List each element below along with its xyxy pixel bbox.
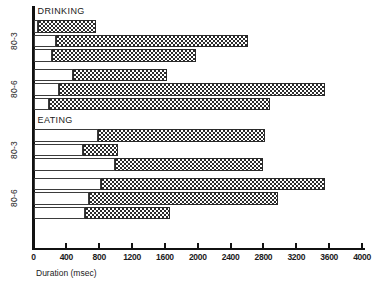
bar	[34, 69, 167, 82]
x-axis-tick-label: 400	[60, 252, 73, 262]
bar-segment-white	[34, 35, 57, 48]
bar	[34, 144, 119, 157]
bar	[34, 192, 278, 205]
x-axis-tick	[164, 243, 166, 248]
bar-segment-white	[34, 83, 59, 96]
x-axis-tick-label: 0	[31, 252, 35, 262]
bar-segment-stippled	[52, 49, 196, 62]
bar-segment-white	[34, 144, 83, 157]
bar-segment-stippled	[49, 98, 270, 111]
bar-segment-stippled	[115, 158, 264, 171]
bar	[34, 207, 170, 220]
bar	[34, 35, 248, 48]
x-axis-title: Duration (msec)	[36, 268, 96, 278]
section-title-drinking: DRINKING	[38, 6, 85, 16]
bar-segment-white	[34, 129, 98, 142]
group-label-eating-0: 80-3	[8, 136, 20, 164]
x-axis-tick-label: 2400	[222, 252, 240, 262]
group-label-drinking-0: 80-3	[8, 27, 20, 55]
x-axis-tick	[295, 243, 297, 248]
bar-segment-stippled	[59, 83, 325, 96]
x-axis-tick	[328, 243, 330, 248]
bar-segment-white	[34, 98, 50, 111]
x-axis-tick-label: 1200	[123, 252, 141, 262]
x-axis-line	[32, 248, 365, 250]
bar-segment-stippled	[101, 178, 325, 191]
bar-segment-white	[34, 192, 89, 205]
bar-segment-stippled	[85, 207, 170, 220]
x-axis-tick-label: 1600	[156, 252, 174, 262]
bar-segment-stippled	[83, 144, 118, 157]
bar-segment-white	[34, 178, 101, 191]
x-axis-tick-label: 4000	[353, 252, 371, 262]
bar	[34, 20, 96, 33]
x-axis-tick-label: 3600	[320, 252, 338, 262]
x-axis-tick	[361, 243, 363, 248]
bar	[34, 49, 197, 62]
group-label-drinking-1: 80-6	[8, 75, 20, 103]
x-axis-tick	[131, 243, 133, 248]
bar-segment-stippled	[89, 192, 278, 205]
bar	[34, 83, 325, 96]
x-axis-tick-label: 2000	[189, 252, 207, 262]
x-axis-tick-label: 800	[93, 252, 106, 262]
bar-segment-white	[34, 49, 52, 62]
x-axis-tick	[262, 243, 264, 248]
bar-segment-stippled	[56, 35, 248, 48]
bar	[34, 158, 264, 171]
bar-segment-white	[34, 69, 73, 82]
section-title-eating: EATING	[38, 115, 73, 125]
x-axis-tick	[98, 243, 100, 248]
bar-segment-stippled	[73, 69, 167, 82]
x-axis-tick	[33, 243, 35, 248]
bar-segment-stippled	[38, 20, 96, 33]
bar	[34, 129, 265, 142]
x-axis-tick	[230, 243, 232, 248]
x-axis-tick	[197, 243, 199, 248]
x-axis-tick	[65, 243, 67, 248]
bar-chart: 040080012001600200024002800320036004000D…	[0, 0, 379, 289]
bar	[34, 98, 271, 111]
x-axis-tick-label: 3200	[287, 252, 305, 262]
bar	[34, 178, 325, 191]
bar-segment-white	[34, 158, 115, 171]
bar-segment-stippled	[98, 129, 265, 142]
group-label-eating-1: 80-6	[8, 184, 20, 212]
bar-segment-white	[34, 207, 85, 220]
x-axis-tick-label: 2800	[255, 252, 273, 262]
